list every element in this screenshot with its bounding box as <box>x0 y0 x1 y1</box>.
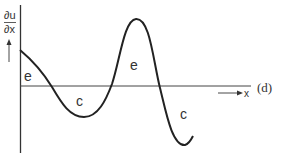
y-label-denominator: ∂x <box>4 23 15 35</box>
arrow-up-icon <box>7 39 12 45</box>
arrow-right-icon <box>237 91 243 96</box>
region-label-e2: e <box>130 57 138 73</box>
derivative-diagram: ∂u ∂x x (d) e c e c <box>0 0 287 156</box>
y-label-numerator: ∂u <box>4 9 16 21</box>
region-label-e1: e <box>24 68 32 84</box>
region-label-c1: c <box>76 93 83 109</box>
derivative-curve <box>20 19 193 145</box>
x-label: x <box>244 88 249 99</box>
panel-label: (d) <box>257 80 272 95</box>
region-label-c2: c <box>180 106 187 122</box>
